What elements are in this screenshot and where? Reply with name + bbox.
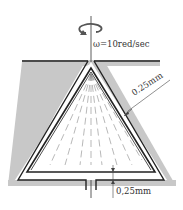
side-gap-dimension: 0.25mm — [124, 70, 170, 116]
rotation-arrow-icon — [79, 24, 101, 35]
side-gap-label: 0.25mm — [130, 70, 165, 97]
bottom-gap-label: 0,25mm — [116, 186, 151, 196]
cone-viscometer-diagram: ω=10red/sec 0.25mm 0,25mm — [0, 0, 183, 210]
rotation-speed-label: ω=10red/sec — [93, 39, 150, 49]
